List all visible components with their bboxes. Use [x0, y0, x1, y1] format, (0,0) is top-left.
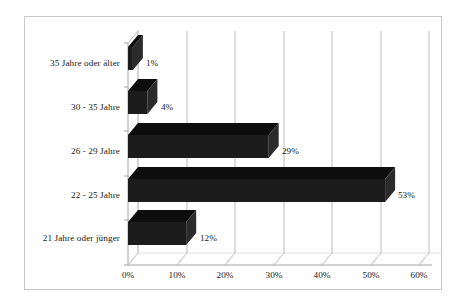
bar-21-jahre-oder-juenger — [128, 210, 196, 245]
chart-floor — [128, 253, 432, 265]
data-label-21-jahre-oder-juenger: 12% — [200, 233, 217, 243]
category-label-22-25-jahre: 22 - 25 Jahre — [12, 190, 120, 200]
x-tick-label-40: 40% — [307, 270, 337, 280]
category-label-30-35-jahre: 30 - 35 Jahre — [12, 102, 120, 112]
x-tick-label-10: 10% — [162, 270, 192, 280]
x-tick-label-30: 30% — [259, 270, 289, 280]
x-tick-label-50: 50% — [356, 270, 386, 280]
bar-22-25-jahre — [128, 167, 395, 202]
x-tick-label-60: 60% — [404, 270, 434, 280]
data-label-30-35-jahre: 4% — [161, 102, 173, 112]
category-label-35-jahre-oder-aelter: 35 Jahre oder älter — [12, 58, 120, 68]
data-label-35-jahre-oder-aelter: 1% — [146, 58, 158, 68]
data-label-22-25-jahre: 53% — [398, 190, 415, 200]
category-label-26-29-jahre: 26 - 29 Jahre — [12, 146, 120, 156]
data-label-26-29-jahre: 29% — [282, 146, 299, 156]
bar-30-35-jahre — [128, 79, 157, 114]
chart-3d-bar-age-distribution: 35 Jahre oder älter 30 - 35 Jahre 26 - 2… — [0, 0, 465, 306]
category-label-21-jahre-oder-juenger: 21 Jahre oder jünger — [12, 233, 120, 243]
bar-26-29-jahre — [128, 123, 279, 158]
x-tick-label-20: 20% — [210, 270, 240, 280]
x-tick-label-0: 0% — [113, 270, 143, 280]
